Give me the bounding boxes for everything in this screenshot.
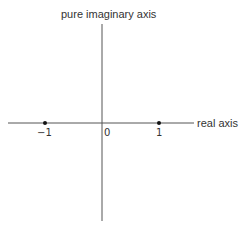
tick-label-minus-one: −1	[37, 127, 52, 139]
point-one	[157, 121, 161, 125]
tick-label-one: 1	[156, 127, 162, 139]
point-minus-one	[43, 121, 47, 125]
real-axis-label: real axis	[197, 117, 238, 129]
tick-label-zero: 0	[104, 127, 110, 139]
imaginary-axis-label: pure imaginary axis	[61, 8, 156, 20]
